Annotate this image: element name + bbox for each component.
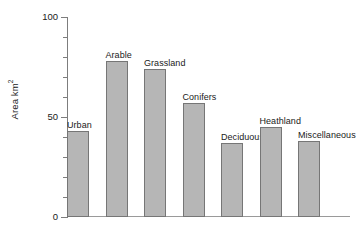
y-axis-title-exponent: 2 xyxy=(7,80,14,84)
y-axis-title-text: Area km xyxy=(9,83,20,119)
bar-group[interactable]: Grassland xyxy=(144,17,166,217)
y-axis-major-tick xyxy=(61,217,68,218)
bar[interactable] xyxy=(144,69,166,217)
bar-label: Arable xyxy=(106,50,132,60)
bar-group[interactable]: Heathland xyxy=(260,17,282,217)
bar-group[interactable]: Urban xyxy=(67,17,89,217)
bar-label: Miscellaneous xyxy=(298,130,356,140)
bar-group[interactable]: Miscellaneous xyxy=(298,17,320,217)
bar-label: Grassland xyxy=(144,58,185,68)
bar[interactable] xyxy=(106,61,128,217)
bar[interactable] xyxy=(221,143,243,217)
y-axis-tick-label: 0 xyxy=(32,211,58,222)
bar-label: Deciduous xyxy=(221,132,264,142)
bar-label: Heathland xyxy=(260,116,301,126)
y-axis-title: Area km2 xyxy=(9,60,20,140)
y-axis-tick-label: 100 xyxy=(32,11,58,22)
bar[interactable] xyxy=(260,127,282,217)
bar[interactable] xyxy=(67,131,89,217)
plot-area: UrbanArableGrasslandConifersDeciduousHea… xyxy=(67,17,350,217)
bar-group[interactable]: Conifers xyxy=(183,17,205,217)
bar-group[interactable]: Arable xyxy=(106,17,128,217)
bar[interactable] xyxy=(298,141,320,217)
bar-group[interactable]: Deciduous xyxy=(221,17,243,217)
bar-label: Urban xyxy=(67,120,92,130)
y-axis-tick-label: 50 xyxy=(32,111,58,122)
bar-label: Conifers xyxy=(183,92,217,102)
bar[interactable] xyxy=(183,103,205,217)
